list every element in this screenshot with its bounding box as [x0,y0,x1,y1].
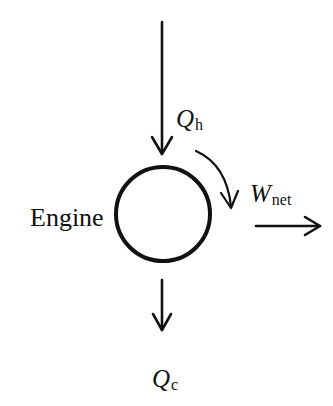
work-out-arrow [256,217,320,235]
heat-out-symbol: Q [152,365,170,392]
heat-out-label: Qc [152,366,178,391]
heat-out-arrow [153,280,171,330]
heat-in-arrow [152,22,172,154]
work-out-label: Wnet [250,181,291,206]
heat-in-subscript: h [195,116,203,133]
rotation-arrow [196,151,238,208]
heat-in-label: Qh [176,106,203,131]
engine-circle [116,167,210,261]
work-out-subscript: net [272,191,292,208]
heat-in-symbol: Q [176,105,194,132]
engine-label: Engine [30,205,104,231]
work-out-symbol: W [250,180,271,207]
heat-out-subscript: c [171,376,178,393]
